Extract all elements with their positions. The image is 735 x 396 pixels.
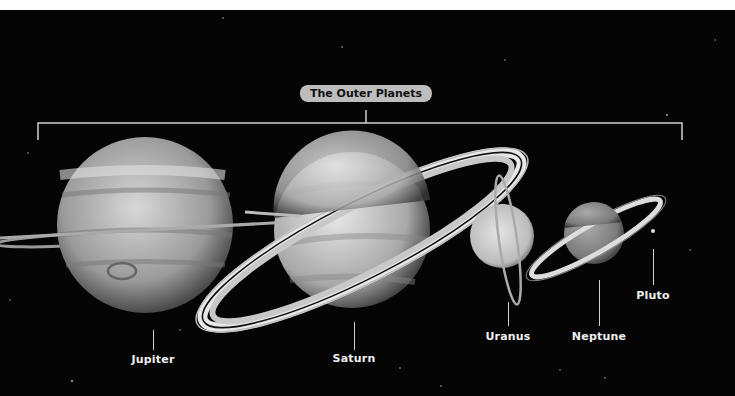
jupiter-planet [0, 137, 290, 313]
pluto-leader [653, 249, 654, 285]
top-white-strip [0, 0, 735, 10]
pluto-label: Pluto [636, 289, 669, 302]
outer-planets-title: The Outer Planets [300, 85, 432, 102]
uranus-leader [508, 302, 509, 326]
neptune-planet [518, 183, 674, 292]
jupiter-label: Jupiter [131, 353, 174, 366]
space-illustration: The Outer Planets Jupiter Saturn Uranus … [0, 10, 735, 396]
neptune-label: Neptune [572, 330, 626, 343]
uranus-label: Uranus [485, 330, 530, 343]
jupiter-leader [153, 330, 154, 350]
pluto-planet [651, 229, 655, 233]
neptune-leader [599, 280, 600, 326]
saturn-leader [354, 322, 355, 350]
saturn-label: Saturn [333, 352, 376, 365]
